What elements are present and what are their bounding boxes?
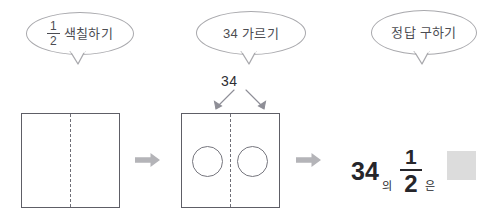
equation-fraction-denominator: 2: [404, 171, 417, 196]
step-bubble-color-half-text: 1 2 색칠하기: [47, 20, 113, 47]
equation-particle-topic: 은: [425, 181, 435, 196]
bubble-fraction-one-half: 1 2: [47, 20, 60, 47]
step-bubble-split-34-label: 34 가르기: [223, 27, 279, 40]
split-value-label: 34: [221, 74, 238, 88]
step-bubble-color-half: 1 2 색칠하기: [26, 12, 134, 55]
bubble-tail-2: [240, 51, 258, 65]
equation-particle-of: 의: [382, 181, 392, 196]
step-bubble-split-34: 34 가르기: [196, 11, 306, 55]
equation-fraction-one-half: 1 2: [400, 146, 422, 196]
step-bubble-find-answer: 정답 구하기: [371, 10, 477, 55]
step-bubble-find-answer-label: 정답 구하기: [391, 26, 456, 39]
step-bubble-split-34-text: 34 가르기: [223, 27, 279, 40]
answer-equation: 34 의 1 2 은: [351, 146, 435, 196]
counter-circle-left: [192, 146, 223, 177]
bubble-tail-3: [413, 51, 431, 65]
equation-fraction-numerator: 1: [405, 146, 417, 169]
rectangle-divider-2: [230, 114, 231, 207]
step-bubble-color-half-label: 색칠하기: [64, 27, 113, 40]
bubble-fraction-denominator: 2: [50, 34, 57, 47]
bubble-tail-1: [69, 51, 87, 65]
shape-half-divided-rectangle-2: [181, 113, 280, 208]
counter-circle-right: [237, 146, 268, 177]
flow-arrow-2: [296, 152, 322, 168]
shape-half-divided-rectangle-1: [21, 113, 120, 208]
worksheet-canvas: 1 2 색칠하기 34 가르기: [0, 0, 495, 222]
split-arrows: [200, 88, 280, 114]
bubble-fraction-numerator: 1: [50, 20, 57, 33]
rectangle-divider-1: [70, 114, 71, 207]
answer-input-box[interactable]: [447, 151, 476, 180]
step-bubble-find-answer-text: 정답 구하기: [391, 26, 456, 39]
flow-arrow-1: [135, 152, 161, 168]
equation-whole-number: 34: [351, 159, 379, 184]
